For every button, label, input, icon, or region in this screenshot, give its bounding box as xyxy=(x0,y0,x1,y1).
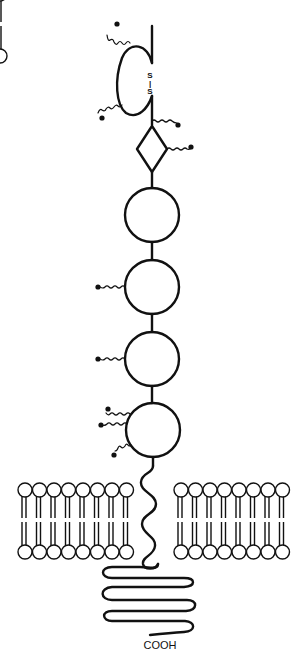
diamond-domain xyxy=(137,126,167,188)
transmembrane-segment xyxy=(141,466,158,569)
lipid-bilayer-left xyxy=(0,0,7,63)
cytoplasmic-tail xyxy=(103,564,196,635)
disulfide-bond-label: S | S xyxy=(147,71,153,96)
lipid-bilayer-right xyxy=(174,483,290,559)
protein-membrane-diagram: S | S COOH xyxy=(0,0,304,656)
circle-domain-1 xyxy=(125,188,179,260)
circle-domain-4 xyxy=(126,403,180,466)
glycan-dots xyxy=(95,21,193,457)
c-terminus-label: COOH xyxy=(144,639,177,651)
svg-text:S: S xyxy=(147,87,153,96)
circle-domain-3 xyxy=(125,332,179,403)
circle-domain-2 xyxy=(125,260,179,332)
glycosylation-chains xyxy=(98,35,192,451)
